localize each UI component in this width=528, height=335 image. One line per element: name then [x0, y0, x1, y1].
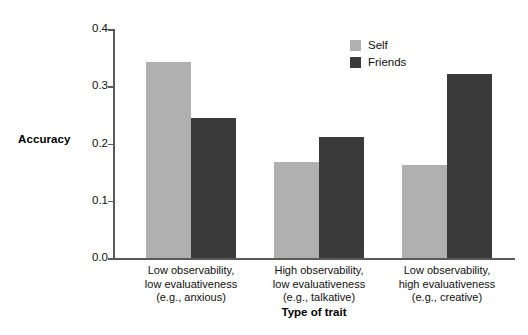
legend-item-friends: Friends	[350, 55, 406, 70]
bar-chart: 0.00.10.20.30.4 Accuracy Type of trait L…	[0, 0, 528, 335]
bar-self-group-2	[274, 162, 319, 258]
y-tick-mark	[108, 29, 113, 31]
category-label-line: (e.g., creative)	[367, 291, 527, 305]
category-label-group-3: Low observability,high evaluativeness(e.…	[367, 264, 527, 305]
y-tick-0.4: 0.4	[68, 23, 108, 35]
y-tick-label: 0.4	[78, 23, 108, 35]
self-swatch-icon	[350, 40, 361, 51]
chart-legend: Self Friends	[350, 38, 406, 72]
y-tick-0.1: 0.1	[68, 195, 108, 207]
legend-item-self: Self	[350, 38, 406, 53]
category-label-line: high evaluativeness	[367, 278, 527, 292]
y-tick-mark	[108, 201, 113, 203]
bar-friends-group-2	[319, 137, 364, 258]
y-tick-mark	[108, 144, 113, 146]
y-tick-label: 0.1	[78, 195, 108, 207]
x-axis-title: Type of trait	[113, 306, 515, 318]
y-axis-title: Accuracy	[18, 133, 71, 145]
y-tick-mark	[108, 86, 113, 88]
y-tick-0.0: 0.0	[68, 252, 108, 264]
bar-self-group-3	[402, 165, 447, 258]
y-tick-0.3: 0.3	[68, 80, 108, 92]
friends-swatch-icon	[350, 57, 361, 68]
legend-label-friends: Friends	[368, 57, 406, 69]
y-tick-label: 0.2	[78, 138, 108, 150]
bar-friends-group-1	[191, 118, 236, 258]
x-axis-line	[113, 258, 515, 260]
y-tick-0.2: 0.2	[68, 138, 108, 150]
bar-friends-group-3	[447, 74, 492, 258]
y-axis-line	[113, 29, 115, 259]
bar-self-group-1	[146, 62, 191, 258]
y-tick-label: 0.3	[78, 80, 108, 92]
category-label-line: Low observability,	[367, 264, 527, 278]
legend-label-self: Self	[368, 40, 388, 52]
y-tick-label: 0.0	[78, 252, 108, 264]
y-tick-mark	[108, 258, 113, 260]
